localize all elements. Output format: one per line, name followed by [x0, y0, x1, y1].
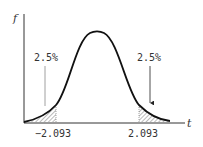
- t-distribution-chart: f t 2.5% 2.5% −2.093 2.093: [0, 0, 203, 147]
- right-critical-value: 2.093: [128, 128, 158, 139]
- left-tail-percent: 2.5%: [34, 52, 58, 63]
- density-curve: [24, 32, 170, 123]
- left-tail-area: [24, 105, 56, 122]
- left-critical-value: −2.093: [35, 128, 71, 139]
- y-axis-label: f: [12, 12, 19, 25]
- x-axis-label: t: [187, 117, 192, 130]
- right-tail-percent: 2.5%: [137, 52, 161, 63]
